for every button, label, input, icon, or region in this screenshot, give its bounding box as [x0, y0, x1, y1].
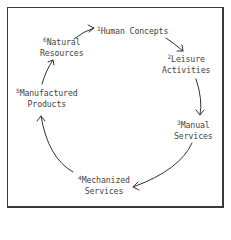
node-label-line2: Resources: [40, 48, 83, 59]
node-label-line2: Services: [78, 186, 130, 197]
node-label: Natural: [47, 37, 81, 47]
arrow-4-to-5: [37, 116, 73, 172]
node-label: Leisure: [171, 54, 205, 64]
node-manual-services: 3Manual Services: [174, 120, 213, 141]
node-label-line2: Products: [16, 99, 78, 110]
arrow-5-to-6: [42, 60, 54, 84]
node-label: Mechanized: [82, 175, 130, 185]
node-leisure-activities: 2Leisure Activities: [162, 54, 210, 75]
node-label: Manufactured: [20, 88, 78, 98]
node-label: Human Concepts: [101, 26, 169, 36]
arrow-3-to-4: [133, 143, 192, 190]
node-natural-resources: 6Natural Resources: [40, 37, 83, 58]
node-label-line2: Activities: [162, 65, 210, 76]
node-label: Manual: [181, 120, 210, 130]
arrow-2-to-3: [196, 79, 204, 115]
arrow-1-to-2: [166, 38, 183, 51]
node-label-line2: Services: [174, 131, 213, 142]
node-manufactured-products: 5Manufactured Products: [16, 88, 78, 109]
node-mechanized-services: 4Mechanized Services: [78, 175, 130, 196]
node-human-concepts: 1Human Concepts: [97, 26, 168, 37]
